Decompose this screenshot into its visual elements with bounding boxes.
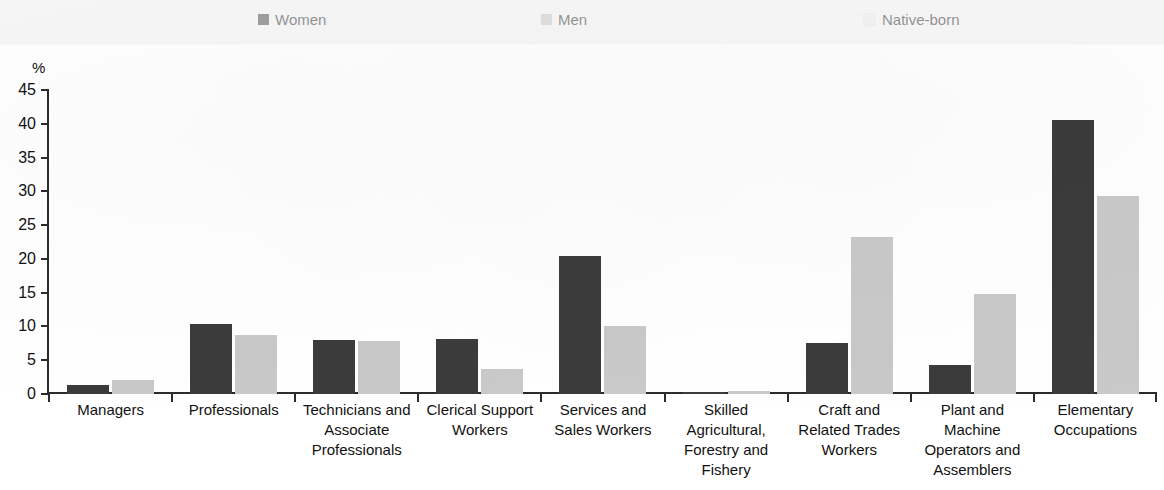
x-axis-label-line: Workers (419, 420, 540, 440)
x-axis-label: Managers (49, 400, 172, 490)
y-axis-tick (41, 258, 49, 260)
x-axis-label-line: Operators and (912, 440, 1033, 460)
bar-women (1052, 120, 1094, 394)
x-axis-label: SkilledAgricultural,Forestry andFishery (665, 400, 788, 490)
bar-group (788, 90, 911, 394)
legend-label-men: Men (558, 11, 587, 28)
legend-swatch-women (258, 14, 269, 25)
x-axis-label-line: Managers (50, 400, 171, 420)
y-axis-tick (41, 190, 49, 192)
x-axis-label-line: Forestry and (666, 440, 787, 460)
x-axis-label-line: Services and (542, 400, 663, 420)
x-axis-label-line: Related Trades (789, 420, 910, 440)
bar-group (911, 90, 1034, 394)
bar-women (683, 392, 725, 394)
y-axis-tick-label: 40 (2, 116, 36, 132)
x-axis-label-line: Craft and (789, 400, 910, 420)
bar-group (172, 90, 295, 394)
legend-label-women: Women (275, 11, 326, 28)
x-axis-label-line: Associate (296, 420, 417, 440)
bar-men (604, 326, 646, 394)
y-axis-tick (41, 89, 49, 91)
bar-groups (49, 90, 1157, 394)
y-axis-tick (41, 325, 49, 327)
x-axis-label: Clerical SupportWorkers (418, 400, 541, 490)
bar-men (235, 335, 277, 394)
x-axis-label-line: Plant and (912, 400, 1033, 420)
bar-women (67, 385, 109, 394)
x-axis-category-labels: ManagersProfessionalsTechnicians andAsso… (49, 400, 1157, 490)
bar-group (49, 90, 172, 394)
y-axis-tick-label: 30 (2, 183, 36, 199)
x-axis-label-line: Skilled (666, 400, 787, 420)
bar-group (418, 90, 541, 394)
y-axis-tick (41, 292, 49, 294)
y-axis-tick (41, 224, 49, 226)
y-axis-tick-label: 35 (2, 150, 36, 166)
y-axis-tick-label: 5 (2, 352, 36, 368)
x-axis-label-line: Workers (789, 440, 910, 460)
y-axis-tick-label: 0 (2, 386, 36, 402)
bar-men (1097, 196, 1139, 394)
x-axis-label-line: Professionals (173, 400, 294, 420)
x-axis-label: Plant andMachineOperators andAssemblers (911, 400, 1034, 490)
x-axis-label-line: Fishery (666, 460, 787, 480)
bar-women (806, 343, 848, 394)
bar-men (851, 237, 893, 394)
x-axis-label: ElementaryOccupations (1034, 400, 1157, 490)
y-axis-tick-label: 15 (2, 285, 36, 301)
bar-group (541, 90, 664, 394)
y-axis-tick (41, 157, 49, 159)
x-axis-label: Technicians andAssociateProfessionals (295, 400, 418, 490)
y-axis-tick (41, 123, 49, 125)
bar-group (295, 90, 418, 394)
x-axis-label-line: Assemblers (912, 460, 1033, 480)
y-axis-tick (41, 359, 49, 361)
legend-swatch-native-born (863, 13, 876, 26)
y-axis-tick-label: 25 (2, 217, 36, 233)
bar-women (313, 340, 355, 394)
bar-men (728, 391, 770, 394)
x-axis-label-line: Clerical Support (419, 400, 540, 420)
bar-women (559, 256, 601, 394)
legend-item-men: Men (541, 11, 587, 28)
y-axis-tick-labels: 454035302520151050 (0, 90, 36, 394)
legend-item-native-born: Native-born (863, 11, 960, 28)
x-axis-label-line: Sales Workers (542, 420, 663, 440)
bar-men (112, 380, 154, 394)
bar-chart-plot-area (47, 90, 1157, 394)
x-axis-label: Services andSales Workers (541, 400, 664, 490)
chart-legend: Women Men Native-born (0, 0, 1164, 44)
x-axis-label-line: Agricultural, (666, 420, 787, 440)
y-axis-tick-label: 45 (2, 82, 36, 98)
x-axis-label-line: Occupations (1035, 420, 1156, 440)
x-axis-label-line: Elementary (1035, 400, 1156, 420)
x-axis-label-line: Professionals (296, 440, 417, 460)
y-axis-unit-label: % (32, 60, 45, 76)
x-axis-label: Craft andRelated TradesWorkers (788, 400, 911, 490)
bar-men (358, 341, 400, 394)
y-axis-tick-label: 10 (2, 318, 36, 334)
legend-item-women: Women (258, 11, 326, 28)
y-axis-tick-label: 20 (2, 251, 36, 267)
bar-group (1034, 90, 1157, 394)
legend-swatch-men (541, 14, 552, 25)
bar-men (974, 294, 1016, 394)
x-axis-label: Professionals (172, 400, 295, 490)
bar-men (481, 369, 523, 394)
bar-women (929, 365, 971, 394)
legend-label-native-born: Native-born (882, 11, 960, 28)
x-axis-label-line: Machine (912, 420, 1033, 440)
bar-women (436, 339, 478, 394)
x-axis-label-line: Technicians and (296, 400, 417, 420)
bar-group (665, 90, 788, 394)
bar-women (190, 324, 232, 394)
